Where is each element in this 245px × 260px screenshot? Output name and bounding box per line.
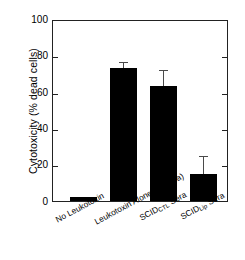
y-tick-label-0: 0 — [24, 197, 48, 207]
y-tick-mark-80 — [53, 57, 58, 58]
y-axis-tick-labels: 100 80 60 40 20 0 — [20, 0, 48, 260]
bar-2 — [110, 68, 137, 201]
y-tick-label-40: 40 — [24, 124, 48, 134]
y-tick-mark-20 — [53, 166, 58, 167]
error-bar-cap-4 — [199, 156, 208, 157]
y-tick-mark-40 — [53, 130, 58, 131]
plot-area — [52, 20, 228, 202]
error-bar-cap-2 — [119, 62, 128, 63]
y-tick-mark-right-40 — [222, 130, 227, 131]
y-tick-mark-right-60 — [222, 94, 227, 95]
y-tick-mark-60 — [53, 94, 58, 95]
y-tick-label-20: 20 — [24, 160, 48, 170]
y-tick-label-80: 80 — [24, 51, 48, 61]
y-tick-mark-right-80 — [222, 57, 227, 58]
y-tick-label-100: 100 — [24, 15, 48, 25]
error-bar-line-4 — [203, 156, 204, 174]
error-bar-cap-3 — [159, 70, 168, 71]
y-tick-mark-right-20 — [222, 166, 227, 167]
bar-chart-figure: Cytotoxicity (% dead cells) 100 80 60 40… — [0, 0, 245, 260]
error-bar-line-3 — [163, 70, 164, 86]
y-tick-label-60: 60 — [24, 88, 48, 98]
